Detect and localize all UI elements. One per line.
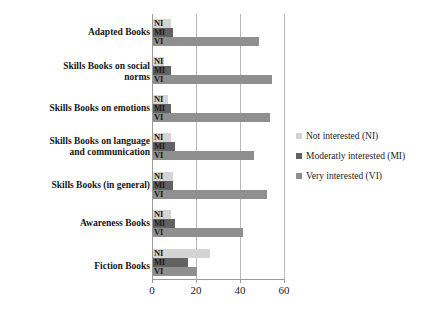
category-label-awareness-books: Awareness Books: [10, 218, 150, 229]
gridline-60: [284, 14, 285, 280]
x-tick-label-0: 0: [137, 284, 167, 296]
category-label-line: Adapted Books: [10, 27, 150, 38]
legend-item-moderately-interested: Moderatly interested (MI): [296, 146, 446, 166]
x-axis-line: [152, 279, 284, 280]
legend-item-not-interested: Not interested (NI): [296, 126, 446, 146]
bar-skills-emotions-vi: [153, 113, 270, 122]
tickmark-60: [284, 279, 285, 283]
tickmark-40: [240, 279, 241, 283]
category-label-skills-social-norms: Skills Books on social norms: [10, 61, 150, 83]
category-label-skills-emotions: Skills Books on emotions: [5, 103, 150, 114]
legend-swatch-icon-vi: [296, 173, 302, 179]
tickmark-20: [196, 279, 197, 283]
bar-label-skills-general-vi: VI: [154, 190, 163, 199]
gridline-40: [240, 14, 241, 280]
bar-skills-general-vi: [153, 190, 267, 199]
legend-swatch-icon-mi: [296, 153, 302, 159]
bar-skills-social-norms-vi: [153, 75, 272, 84]
category-label-line: Skills Books (in general): [8, 180, 150, 191]
bar-adapted-books-vi: [153, 37, 259, 46]
bar-label-skills-social-norms-vi: VI: [154, 75, 163, 84]
bar-label-skills-emotions-vi: VI: [154, 113, 163, 122]
bar-awareness-books-vi: [153, 228, 243, 237]
category-label-line: and communication: [3, 147, 150, 158]
x-tick-label-40: 40: [225, 284, 255, 296]
category-label-line: Skills Books on emotions: [5, 103, 150, 114]
x-tick-label-20: 20: [181, 284, 211, 296]
tickmark-0: [152, 279, 153, 283]
category-label-fiction-books: Fiction Books: [10, 261, 150, 272]
legend-label-mi: Moderatly interested (MI): [306, 151, 405, 161]
bar-skills-language-vi: [153, 151, 254, 160]
x-tick-label-60: 60: [269, 284, 299, 296]
legend-swatch-icon-ni: [296, 133, 302, 139]
bar-label-fiction-books-vi: VI: [154, 267, 163, 276]
gridline-20: [196, 14, 197, 280]
legend-label-ni: Not interested (NI): [306, 131, 378, 141]
category-label-line: Fiction Books: [10, 261, 150, 272]
category-label-line: Skills Books on language: [3, 136, 150, 147]
category-label-skills-language: Skills Books on language and communicati…: [3, 136, 150, 158]
category-label-line: Awareness Books: [10, 218, 150, 229]
category-label-skills-general: Skills Books (in general): [8, 180, 150, 191]
chart-legend: Not interested (NI) Moderatly interested…: [296, 126, 446, 186]
legend-item-very-interested: Very interested (VI): [296, 166, 446, 186]
bar-label-adapted-books-vi: VI: [154, 37, 163, 46]
category-label-line: norms: [10, 72, 150, 83]
category-label-adapted-books: Adapted Books: [10, 27, 150, 38]
bar-label-awareness-books-vi: VI: [154, 228, 163, 237]
legend-label-vi: Very interested (VI): [306, 171, 382, 181]
bar-label-skills-language-vi: VI: [154, 151, 163, 160]
category-label-line: Skills Books on social: [10, 61, 150, 72]
bar-chart: 0 20 40 60 Adapted Books NI MI VI Skills…: [0, 0, 447, 318]
